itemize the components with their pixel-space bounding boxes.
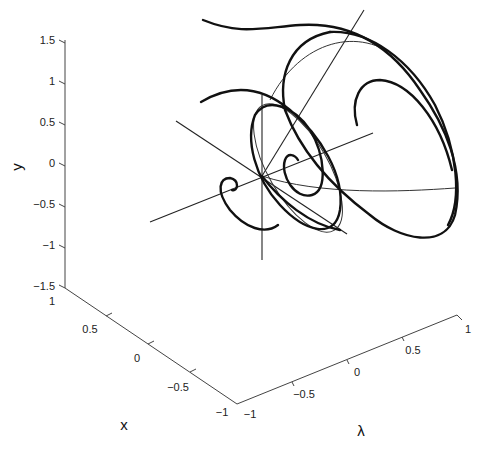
- y-tick: 0.5: [40, 116, 55, 128]
- trajectory-outer: [203, 20, 458, 238]
- x-axis-label: x: [120, 416, 128, 433]
- lambda-tick-labels: −1 −0.5 0 0.5 1: [244, 323, 471, 420]
- y-tick: 1: [49, 75, 55, 87]
- lambda-tick: 1: [465, 323, 471, 335]
- y-tick: 0: [49, 157, 55, 169]
- y-tick: 1.5: [40, 34, 55, 46]
- lambda-axis-label: λ: [357, 422, 365, 439]
- x-tick: 1: [49, 295, 55, 307]
- trajectory-right-hook: [355, 80, 452, 170]
- y-tick: −1.5: [33, 280, 55, 292]
- lambda-tick: 0.5: [405, 344, 420, 356]
- phase-portrait-3d: 1.5 1 0.5 0 −0.5 −1 −1.5 1 0.5 0 −0.5 −1…: [0, 0, 480, 455]
- x-axis: [65, 288, 237, 404]
- x-tick: 0.5: [82, 323, 97, 335]
- trajectory-inner-spiral: [201, 90, 341, 229]
- lambda-tick: −0.5: [293, 388, 315, 400]
- y-tick-labels: 1.5 1 0.5 0 −0.5 −1 −1.5: [33, 34, 55, 292]
- x-tick-labels: 1 0.5 0 −0.5 −1: [49, 295, 228, 418]
- y-tick: −0.5: [33, 198, 55, 210]
- inner-axes: [150, 10, 373, 260]
- x-tick: −0.5: [167, 381, 189, 393]
- y-tick: −1: [42, 239, 55, 251]
- y-axis: [59, 40, 65, 288]
- y-axis-label: y: [8, 163, 25, 171]
- lambda-tick: 0: [354, 366, 360, 378]
- lambda-axis: [237, 315, 462, 404]
- x-tick: −1: [216, 406, 229, 418]
- lambda-tick: −1: [244, 408, 257, 420]
- x-tick: 0: [134, 352, 140, 364]
- trajectories: [201, 20, 458, 238]
